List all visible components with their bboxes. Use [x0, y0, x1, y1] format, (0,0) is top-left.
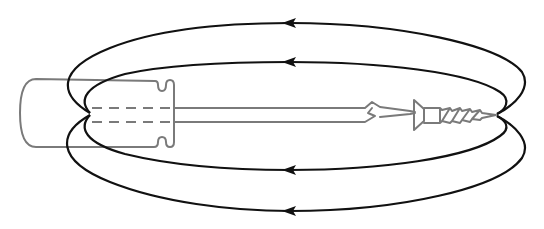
diagram-canvas	[0, 0, 544, 229]
screwdriver-shaft	[175, 102, 415, 122]
screw-body	[424, 108, 496, 123]
field-line-outer-bottom	[67, 115, 525, 211]
screwdriver	[20, 79, 415, 147]
field-lines	[67, 18, 525, 216]
screw-head	[414, 100, 424, 130]
field-line-outer-top	[68, 23, 525, 114]
magnetic-field-diagram: Magnetic field lines around a magnetized…	[0, 0, 544, 229]
field-line-inner-top	[85, 62, 507, 114]
screwdriver-handle	[20, 79, 174, 147]
screw	[414, 100, 496, 130]
field-line-inner-bottom	[85, 115, 507, 170]
